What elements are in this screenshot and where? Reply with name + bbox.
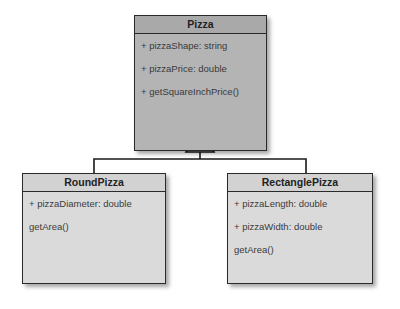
class-rectangle-pizza[interactable]: RectanglePizza + pizzaLength: double + p… bbox=[227, 173, 373, 284]
class-name: RectanglePizza bbox=[228, 174, 372, 192]
method-get-square-inch-price: + getSquareInchPrice() bbox=[141, 84, 260, 107]
attribute-pizza-length: + pizzaLength: double bbox=[234, 196, 366, 219]
attribute-pizza-diameter: + pizzaDiameter: double bbox=[29, 196, 159, 219]
attribute-pizza-width: + pizzaWidth: double bbox=[234, 219, 366, 242]
attribute-pizza-shape: + pizzaShape: string bbox=[141, 38, 260, 61]
class-name: Pizza bbox=[135, 16, 266, 34]
class-pizza[interactable]: Pizza + pizzaShape: string + pizzaPrice:… bbox=[134, 15, 267, 151]
method-get-area: getArea() bbox=[29, 219, 159, 242]
class-name: RoundPizza bbox=[23, 174, 165, 192]
class-round-pizza[interactable]: RoundPizza + pizzaDiameter: double getAr… bbox=[22, 173, 166, 284]
attribute-pizza-price: + pizzaPrice: double bbox=[141, 61, 260, 84]
connector-round-pizza bbox=[94, 159, 306, 173]
method-get-area: getArea() bbox=[234, 242, 366, 265]
